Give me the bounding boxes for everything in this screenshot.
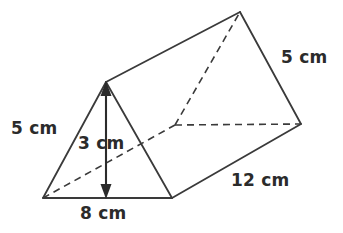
height-arrow-head-down — [101, 184, 112, 199]
label-triangle-height: 3 cm — [78, 135, 124, 152]
edge-hidden-back-base — [175, 124, 301, 125]
edge-back-right-slant — [240, 12, 301, 124]
label-right-slant-side: 5 cm — [281, 49, 327, 66]
prism-figure: 5 cm 3 cm 8 cm 5 cm 12 cm — [0, 0, 343, 233]
label-triangle-base: 8 cm — [80, 205, 126, 222]
label-prism-length: 12 cm — [231, 172, 289, 189]
label-left-slant-side: 5 cm — [11, 120, 57, 137]
prism-drawing — [0, 0, 343, 233]
